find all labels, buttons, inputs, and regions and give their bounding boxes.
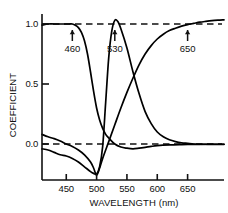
y-axis-title: COEFFICIENT [7, 73, 18, 138]
annotation-label: 460 [65, 43, 81, 54]
x-tick-label: 500 [89, 183, 105, 194]
x-tick-label: 550 [119, 183, 135, 194]
coefficient-vs-wavelength-figure: 0.00.51.0 450500550600650 460530650 COEF… [0, 0, 228, 213]
arrow-head [112, 30, 117, 34]
x-axis-title: WAVELENGTH (nm) [89, 197, 178, 208]
annotation-label: 530 [107, 43, 123, 54]
x-tick-label: 600 [149, 183, 165, 194]
x-tick-group: 450500550600650 [58, 174, 195, 194]
annotation-label: 650 [180, 43, 196, 54]
axes-group [42, 14, 224, 180]
y-tick-group: 0.00.51.0 [25, 18, 49, 149]
arrow-460: 460 [65, 30, 81, 54]
arrow-650: 650 [180, 30, 196, 54]
x-tick-label: 450 [58, 183, 74, 194]
y-tick-label: 0.0 [25, 138, 38, 149]
arrow-530: 530 [107, 30, 123, 54]
y-tick-label: 1.0 [25, 18, 38, 29]
x-tick-label: 650 [180, 183, 196, 194]
arrow-head [70, 30, 75, 34]
arrow-head [185, 30, 190, 34]
chart-canvas: 0.00.51.0 450500550600650 460530650 COEF… [0, 0, 228, 213]
y-tick-label: 0.5 [25, 78, 38, 89]
reference-lines-group [42, 24, 222, 144]
